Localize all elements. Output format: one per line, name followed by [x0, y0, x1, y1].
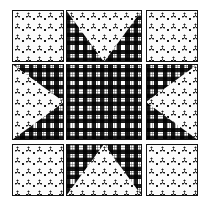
tile-bottom-center — [66, 144, 142, 196]
tile-top-left — [12, 10, 64, 62]
tile-top-right-base-light-floral — [146, 10, 198, 62]
tile-center — [66, 64, 142, 140]
tile-bottom-left — [12, 144, 64, 196]
tile-bottom-right — [146, 144, 198, 196]
tile-center-base-dark-gingham — [66, 64, 142, 140]
tile-middle-right — [146, 64, 198, 140]
tile-top-left-base-light-floral — [12, 10, 64, 62]
tile-bottom-left-base-light-floral — [12, 144, 64, 196]
tile-top-center — [66, 10, 142, 62]
tile-middle-left — [12, 64, 64, 140]
quilt-pattern-grid — [0, 0, 202, 199]
tile-bottom-right-base-light-floral — [146, 144, 198, 196]
tile-top-right — [146, 10, 198, 62]
